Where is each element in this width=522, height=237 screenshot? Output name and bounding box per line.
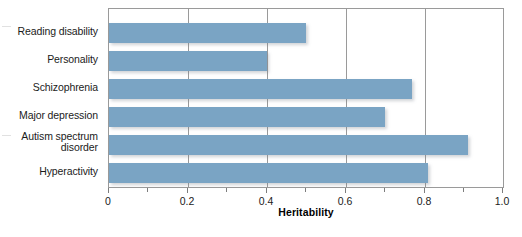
xtick-0: [108, 188, 109, 193]
category-axis-labels: Reading disability Personality Schizophr…: [0, 14, 104, 180]
gridline-0.8: [425, 9, 426, 187]
bar-personality: [109, 51, 267, 71]
category-label-autism-spectrum-disorder-line2: disorder: [0, 142, 98, 154]
xtick-minor-0.9: [463, 188, 464, 192]
bar-hyperactivity: [109, 163, 428, 183]
bar-autism-spectrum-disorder: [109, 135, 468, 155]
xtick-minor-0.7: [384, 188, 385, 192]
xtick-0.4: [266, 188, 267, 193]
bar-reading-disability: [109, 23, 306, 43]
xtick-0.8: [424, 188, 425, 193]
heritability-bar-chart: Reading disability Personality Schizophr…: [0, 0, 522, 237]
x-axis-title: Heritability: [108, 206, 504, 218]
xtick-minor-0.3: [226, 188, 227, 192]
xtick-minor-0.1: [147, 188, 148, 192]
bar-major-depression: [109, 107, 385, 127]
category-label-personality: Personality: [0, 54, 98, 66]
bar-schizophrenia: [109, 79, 412, 99]
category-label-schizophrenia: Schizophrenia: [0, 82, 98, 94]
xtick-minor-0.5: [305, 188, 306, 192]
xtick-1.0: [502, 188, 503, 193]
xtick-0.6: [345, 188, 346, 193]
category-label-major-depression: Major depression: [0, 110, 98, 122]
plot-area: [108, 8, 504, 188]
category-label-reading-disability: Reading disability: [0, 26, 98, 38]
xtick-0.2: [187, 188, 188, 193]
category-label-hyperactivity: Hyperactivity: [0, 166, 98, 178]
